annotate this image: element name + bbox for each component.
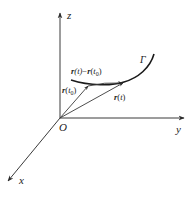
vector-function-diagram: z y x O Γ r(t)−r(t0) r(t0) r(t): [0, 0, 195, 199]
origin-label: O: [59, 121, 67, 133]
curve-gamma-label: Γ: [139, 54, 146, 65]
x-axis: [8, 118, 60, 181]
vector-r-t0-label: r(t0): [62, 85, 77, 96]
z-axis-label: z: [66, 9, 72, 21]
x-axis-label: x: [18, 174, 24, 186]
difference-vector-label: r(t)−r(t0): [71, 66, 102, 77]
vector-r-t-label: r(t): [114, 92, 126, 102]
y-axis-label: y: [175, 123, 181, 135]
axes: [8, 13, 184, 181]
